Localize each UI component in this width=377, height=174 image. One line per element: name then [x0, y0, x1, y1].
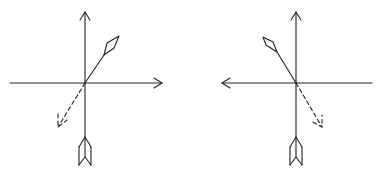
left-solid-vector — [85, 55, 104, 83]
left-fletching-icon — [79, 137, 91, 165]
right-fletching-icon — [290, 137, 302, 165]
right-dashed-vector — [296, 83, 322, 127]
right-solid-vector — [277, 52, 296, 83]
vector-diagram-canvas — [0, 0, 377, 174]
left-diamond-marker-icon — [104, 36, 119, 55]
right-diamond-marker-icon — [263, 37, 277, 52]
left-panel — [10, 12, 162, 165]
right-panel — [222, 12, 372, 165]
left-dashed-vector — [58, 83, 85, 127]
